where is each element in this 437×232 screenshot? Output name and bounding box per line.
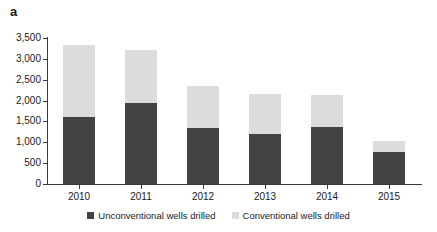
bar-segment-unconventional (187, 128, 219, 184)
bar-stack-2014 (311, 95, 343, 184)
bar-segment-conventional (311, 95, 343, 128)
y-axis-tick-label: 2,000 (1, 96, 41, 106)
bar-stack-2011 (125, 50, 157, 184)
y-axis-tick-labels: 05001,0001,5002,0002,5003,0003,500 (0, 0, 48, 232)
legend-item-conventional: Conventional wells drilled (232, 210, 350, 221)
legend-item-unconventional: Unconventional wells drilled (87, 210, 215, 221)
bar-segment-conventional (249, 94, 281, 134)
bar-segment-conventional (187, 86, 219, 128)
x-axis-tick-label-2014: 2014 (307, 191, 347, 202)
x-axis-tick-label-2010: 2010 (59, 191, 99, 202)
bar-stack-2010 (63, 45, 95, 184)
y-axis-tick-label: 1,500 (1, 116, 41, 126)
y-axis-tick-label: 3,500 (1, 33, 41, 43)
legend-label: Conventional wells drilled (243, 210, 350, 221)
bar-segment-unconventional (311, 127, 343, 184)
y-axis-tick-mark (43, 121, 48, 122)
x-axis-tick-label-2015: 2015 (369, 191, 409, 202)
x-axis-line (47, 184, 422, 185)
y-axis-tick-mark (43, 38, 48, 39)
y-axis-tick-label: 1,000 (1, 137, 41, 147)
y-axis-tick-mark (43, 142, 48, 143)
x-axis-tick-label-2013: 2013 (245, 191, 285, 202)
bar-stack-2012 (187, 86, 219, 184)
bar-segment-conventional (125, 50, 157, 103)
y-axis-tick-label: 500 (1, 158, 41, 168)
y-axis-tick-mark (43, 59, 48, 60)
legend-swatch-icon (232, 212, 239, 219)
y-axis-tick-label: 2,500 (1, 75, 41, 85)
x-axis-tick-label-2011: 2011 (121, 191, 161, 202)
x-axis-tick-mark (79, 185, 80, 189)
y-axis-tick-label: 3,000 (1, 54, 41, 64)
x-axis-tick-mark (389, 185, 390, 189)
y-axis-tick-label: 0 (1, 179, 41, 189)
bar-stack-2013 (249, 94, 281, 184)
y-axis-tick-mark (43, 80, 48, 81)
x-axis-tick-mark (327, 185, 328, 189)
bar-segment-unconventional (373, 152, 405, 184)
bar-segment-conventional (373, 141, 405, 152)
legend-label: Unconventional wells drilled (98, 210, 215, 221)
y-axis-tick-mark (43, 163, 48, 164)
bar-segment-unconventional (63, 117, 95, 184)
legend-swatch-icon (87, 212, 94, 219)
x-axis-tick-label-2012: 2012 (183, 191, 223, 202)
plot-area (48, 38, 420, 184)
y-axis-tick-mark (43, 184, 48, 185)
bar-stack-2015 (373, 141, 405, 184)
chart-legend: Unconventional wells drilledConventional… (0, 210, 437, 221)
x-axis-tick-mark (265, 185, 266, 189)
bar-segment-unconventional (249, 134, 281, 184)
y-axis-tick-mark (43, 101, 48, 102)
x-axis-tick-mark (203, 185, 204, 189)
figure-panel-a: a 05001,0001,5002,0002,5003,0003,500 Unc… (0, 0, 437, 232)
bar-segment-conventional (63, 45, 95, 117)
bar-segment-unconventional (125, 103, 157, 184)
x-axis-tick-mark (141, 185, 142, 189)
